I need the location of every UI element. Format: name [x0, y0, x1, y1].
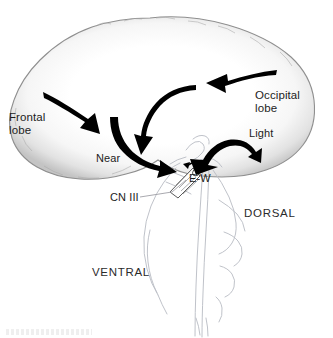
label-ew-nucleus: E-W [189, 172, 211, 184]
cropped-caption-remnant [6, 329, 92, 335]
label-dorsal: DORSAL [244, 207, 296, 220]
label-ventral: VENTRAL [92, 266, 150, 279]
cortex-descending-arrow [134, 85, 196, 155]
occipital-lobe-line1: Occipital [255, 89, 300, 101]
pupillary-pathway-figure: Frontal lobe Occipital lobe Light Near C… [0, 0, 333, 338]
label-light: Light [249, 127, 273, 139]
frontal-to-midbrain-arrow [43, 92, 100, 134]
pathway-arrow-layer [0, 0, 333, 338]
label-frontal-lobe: Frontal lobe [9, 111, 46, 137]
label-near: Near [96, 152, 120, 164]
frontal-lobe-line1: Frontal [9, 111, 46, 123]
occipital-lobe-line2: lobe [255, 102, 277, 114]
light-arch-arrow [190, 140, 262, 176]
frontal-lobe-line2: lobe [9, 124, 31, 136]
label-cn-iii: CN III [110, 191, 139, 203]
label-occipital-lobe: Occipital lobe [255, 89, 300, 115]
